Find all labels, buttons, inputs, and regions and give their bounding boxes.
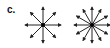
star-8-arrows bbox=[25, 7, 61, 43]
field-arrow bbox=[30, 25, 43, 38]
field-arrow bbox=[30, 12, 43, 25]
field-arrow bbox=[43, 12, 56, 25]
center-charge-dot bbox=[41, 23, 45, 27]
star-12-arrows bbox=[74, 7, 110, 43]
field-diagrams bbox=[0, 0, 110, 48]
field-arrow bbox=[43, 25, 56, 38]
center-charge-dot bbox=[90, 23, 94, 27]
